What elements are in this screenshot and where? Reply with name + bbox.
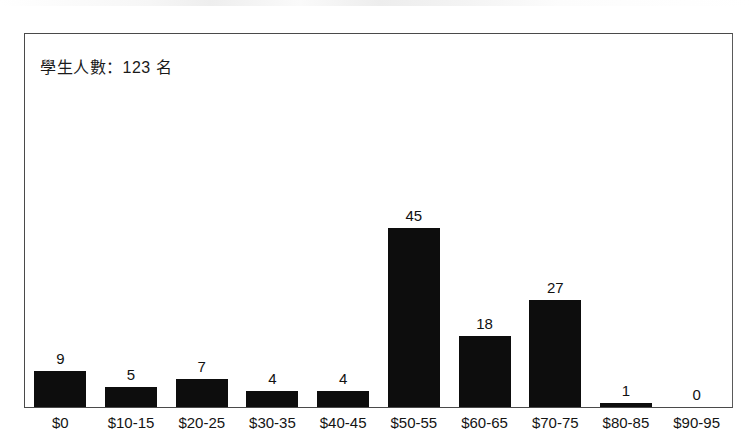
bar-value-label: 4 xyxy=(339,370,347,387)
x-tick-label: $20-25 xyxy=(166,412,237,434)
bar-group: 4 xyxy=(308,34,379,407)
bar-value-label: 0 xyxy=(692,386,700,403)
bar xyxy=(317,391,369,407)
bar-value-label: 45 xyxy=(406,207,423,224)
bar-value-label: 9 xyxy=(56,350,64,367)
bar xyxy=(246,391,298,407)
bar-chart-figure: 學生人數：123 名 9574445182710 $0$10-15$20-25$… xyxy=(0,0,753,443)
bar xyxy=(388,228,440,407)
x-tick-label: $80-85 xyxy=(591,412,662,434)
x-tick-label: $50-55 xyxy=(379,412,450,434)
x-tick-label: $60-65 xyxy=(449,412,520,434)
bar-group: 45 xyxy=(379,34,450,407)
x-tick-label: $70-75 xyxy=(520,412,591,434)
bar xyxy=(600,403,652,407)
x-axis-labels: $0$10-15$20-25$30-35$40-45$50-55$60-65$7… xyxy=(25,412,732,438)
x-tick-label: $40-45 xyxy=(308,412,379,434)
bar-value-label: 5 xyxy=(127,366,135,383)
bar-group: 5 xyxy=(96,34,167,407)
bar-value-label: 4 xyxy=(268,370,276,387)
bar-group: 18 xyxy=(449,34,520,407)
bar xyxy=(105,387,157,407)
bar-group: 4 xyxy=(237,34,308,407)
x-tick-label: $90-95 xyxy=(661,412,732,434)
bar-value-label: 27 xyxy=(547,279,564,296)
x-tick-label: $30-35 xyxy=(237,412,308,434)
bar xyxy=(176,379,228,407)
bars-layer: 9574445182710 xyxy=(25,34,732,407)
bar-value-label: 18 xyxy=(476,315,493,332)
bar-group: 1 xyxy=(591,34,662,407)
bar-value-label: 1 xyxy=(622,382,630,399)
bar-group: 0 xyxy=(661,34,732,407)
bar-group: 9 xyxy=(25,34,96,407)
bar xyxy=(529,300,581,407)
bar-value-label: 7 xyxy=(198,358,206,375)
x-tick-label: $0 xyxy=(25,412,96,434)
bar xyxy=(34,371,86,407)
bar-group: 7 xyxy=(166,34,237,407)
bar xyxy=(459,336,511,407)
x-tick-label: $10-15 xyxy=(96,412,167,434)
bar-group: 27 xyxy=(520,34,591,407)
